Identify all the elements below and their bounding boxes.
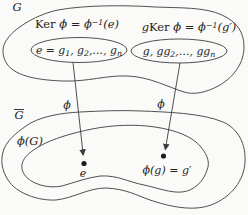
phi-arrow-right bbox=[165, 63, 180, 150]
identity-point-label: e bbox=[80, 167, 87, 180]
kernel-title-arg: (e) bbox=[103, 17, 119, 31]
group-g-label: G bbox=[12, 0, 21, 14]
identity-point bbox=[81, 161, 86, 166]
phi-label-left: ϕ bbox=[63, 99, 71, 112]
phi-image-boundary bbox=[22, 125, 209, 192]
kernel-title-mid: ϕ = ϕ bbox=[59, 17, 92, 31]
kernel-coset-diagram: G Ker ϕ = ϕ−1(e) e = g1, g2,…, gn gKer ϕ… bbox=[0, 0, 248, 215]
coset-title: gKer ϕ = ϕ−1(g′) bbox=[142, 20, 237, 34]
coset-title-arg: (g′) bbox=[217, 20, 236, 34]
phi-image-label: ϕ(G) bbox=[17, 134, 43, 148]
kernel-title: Ker ϕ = ϕ−1(e) bbox=[35, 17, 119, 31]
phi-label-right: ϕ bbox=[157, 98, 165, 111]
kernel-title-fn: Ker bbox=[35, 17, 59, 31]
coset-title-fn: Ker bbox=[149, 20, 173, 34]
coset-title-mid: ϕ = ϕ bbox=[173, 20, 206, 34]
kernel-title-sup: −1 bbox=[92, 18, 104, 27]
coset-title-g: g bbox=[142, 20, 149, 34]
coset-title-sup: −1 bbox=[206, 21, 218, 30]
coset-elements: g, gg2,…, ggn bbox=[143, 45, 216, 59]
mapped-point-label: ϕ(g) = g′ bbox=[143, 164, 192, 177]
diagram-canvas: G Ker ϕ = ϕ−1(e) e = g1, g2,…, gn gKer ϕ… bbox=[0, 0, 248, 215]
mapped-point bbox=[161, 153, 166, 158]
phi-arrow-left bbox=[73, 63, 83, 156]
group-gbar-label: G bbox=[14, 108, 23, 122]
kernel-elements: e = g1, g2,…, gn bbox=[36, 44, 122, 58]
